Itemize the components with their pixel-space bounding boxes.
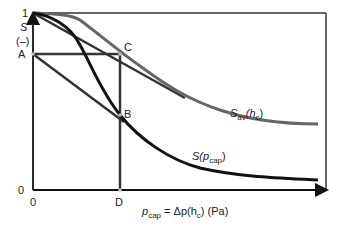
label-scap: S(pcap) (192, 150, 226, 165)
x-axis-label: pcap = Δp(hc) (Pa) (141, 205, 228, 220)
line-a-b (33, 54, 124, 122)
sav-arg: (h (246, 107, 256, 119)
x-label-sub: cap (148, 211, 161, 220)
y-tick-1: 1 (22, 7, 28, 19)
scap-sub: cap (209, 156, 222, 165)
tangent-line (33, 13, 185, 98)
x-label-p: p (141, 205, 148, 217)
y-axis-unit: (–) (16, 35, 29, 47)
point-c-marker (118, 52, 122, 56)
scap-symbol: S(p (192, 150, 209, 162)
y-axis-symbol: S (20, 21, 28, 33)
point-b-marker (118, 113, 122, 117)
label-sav: Sav(hc) (230, 107, 263, 122)
sav-arg-close: ) (260, 107, 264, 119)
label-d: D (115, 196, 123, 208)
x-label-tail: ) (Pa) (201, 205, 229, 217)
x-label-eq: = Δp(h (161, 205, 197, 217)
point-a-marker (31, 52, 35, 56)
label-c: C (124, 41, 132, 53)
curve-sav (33, 13, 318, 124)
sav-sub: av (237, 113, 245, 122)
curve-scap (33, 13, 318, 180)
x-tick-0: 0 (30, 196, 36, 208)
point-d-marker (118, 188, 122, 192)
y-tick-0: 0 (18, 184, 24, 196)
diagram-canvas: 1 S (–) A 0 C B D 0 Sav(hc) S(pcap) pcap… (0, 0, 342, 225)
scap-close: ) (222, 150, 226, 162)
label-b: B (124, 108, 131, 120)
label-a: A (18, 48, 26, 60)
